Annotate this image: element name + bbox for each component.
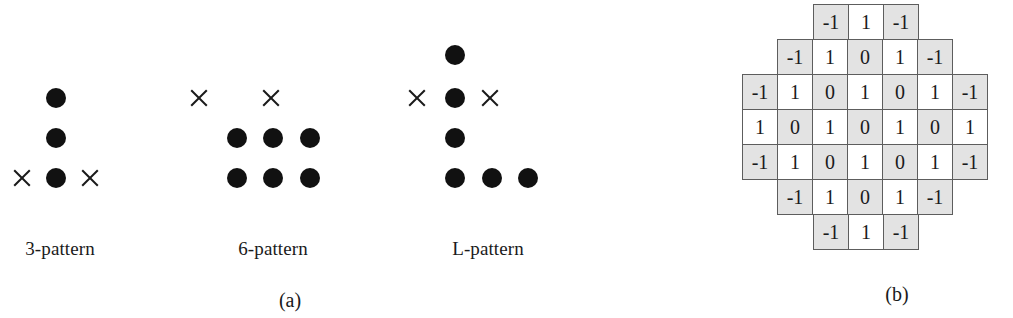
pattern-L-pattern: L-pattern (0, 0, 620, 318)
lattice-cell: -1 (813, 214, 849, 250)
lattice-cell: 1 (882, 39, 918, 75)
lattice-cell: 0 (777, 109, 813, 145)
lattice-row: -1101-1 (742, 39, 988, 75)
lattice-cell: 1 (847, 144, 883, 180)
lattice-cell: 1 (777, 144, 813, 180)
lattice-cell: 1 (848, 4, 884, 40)
lattice-cell: -1 (917, 39, 953, 75)
lattice-grid: -11-1-1101-1-110101-11010101-110101-1-11… (742, 4, 988, 250)
lattice-cell: 0 (882, 144, 918, 180)
dot-marker (445, 45, 465, 65)
lattice-cell: 0 (812, 74, 848, 110)
lattice-row: -11-1 (742, 214, 988, 250)
lattice-cell: 0 (847, 179, 883, 215)
lattice-cell: 1 (812, 39, 848, 75)
lattice-spacer (742, 4, 778, 40)
lattice-cell: -1 (742, 144, 778, 180)
lattice-cell: 1 (742, 109, 778, 145)
lattice-cell: -1 (777, 179, 813, 215)
lattice-cell: -1 (883, 214, 919, 250)
lattice-cell: -1 (917, 179, 953, 215)
lattice-cell: 1 (917, 74, 953, 110)
pattern-label: L-pattern (452, 238, 524, 260)
lattice-cell: 1 (952, 109, 988, 145)
lattice-cell: 0 (847, 109, 883, 145)
lattice-cell: -1 (777, 39, 813, 75)
dot-marker (445, 128, 465, 148)
lattice-cell: 1 (812, 109, 848, 145)
dot-marker (445, 168, 465, 188)
lattice-spacer (742, 39, 778, 75)
lattice-cell: 0 (917, 109, 953, 145)
lattice-cell: -1 (952, 144, 988, 180)
lattice-cell: 1 (812, 179, 848, 215)
lattice-cell: 0 (812, 144, 848, 180)
panel-b-caption: (b) (885, 283, 908, 306)
lattice-cell: 1 (848, 214, 884, 250)
lattice-cell: 1 (777, 74, 813, 110)
lattice-row: 1010101 (742, 109, 988, 145)
cross-marker-icon (406, 87, 428, 109)
lattice-cell: 1 (847, 74, 883, 110)
lattice-cell: 0 (847, 39, 883, 75)
panel-b-lattice: -11-1-1101-1-110101-11010101-110101-1-11… (620, 0, 1013, 318)
lattice-cell: 0 (882, 74, 918, 110)
lattice-row: -110101-1 (742, 144, 988, 180)
dot-marker (482, 168, 502, 188)
lattice-cell: 1 (882, 109, 918, 145)
dot-marker (518, 168, 538, 188)
cross-marker-icon (479, 87, 501, 109)
lattice-row: -110101-1 (742, 74, 988, 110)
lattice-spacer (742, 214, 778, 250)
lattice-cell: -1 (742, 74, 778, 110)
lattice-spacer (778, 4, 814, 40)
lattice-spacer (742, 179, 778, 215)
lattice-cell: -1 (952, 74, 988, 110)
lattice-row: -1101-1 (742, 179, 988, 215)
lattice-row: -11-1 (742, 4, 988, 40)
lattice-cell: 1 (917, 144, 953, 180)
panel-a-patterns: 3-pattern6-patternL-pattern (a) (0, 0, 620, 318)
dot-marker (445, 88, 465, 108)
lattice-cell: -1 (813, 4, 849, 40)
lattice-cell: 1 (882, 179, 918, 215)
lattice-cell: -1 (883, 4, 919, 40)
panel-a-caption: (a) (279, 289, 301, 312)
lattice-spacer (778, 214, 814, 250)
